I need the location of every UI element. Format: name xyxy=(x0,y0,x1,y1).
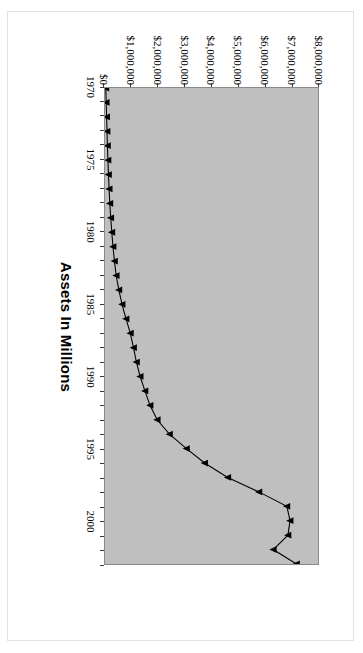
data-point-marker xyxy=(282,502,289,509)
data-point-marker xyxy=(269,546,276,553)
value-tick-mark xyxy=(211,83,212,87)
series-assets-line xyxy=(105,88,296,564)
value-tick-mark xyxy=(318,83,319,87)
data-point-marker xyxy=(105,88,109,91)
value-tick-mark xyxy=(157,83,158,87)
data-point-marker xyxy=(153,416,160,423)
category-tick-mark xyxy=(100,390,104,391)
category-tick-mark xyxy=(100,187,104,188)
value-tick-label: $1,000,000 xyxy=(124,35,136,85)
value-tick-label: $2,000,000 xyxy=(151,35,163,85)
data-point-marker xyxy=(106,214,113,221)
value-tick-label: $8,000,000 xyxy=(313,35,325,85)
category-tick-mark xyxy=(100,274,104,275)
value-tick-mark xyxy=(184,83,185,87)
value-tick-label: $6,000,000 xyxy=(259,35,271,85)
category-tick-mark xyxy=(100,361,104,362)
value-tick-mark xyxy=(264,83,265,87)
category-tick-mark xyxy=(100,129,104,130)
category-tick-mark xyxy=(100,260,104,261)
category-tick-mark xyxy=(100,405,104,406)
category-tick-mark xyxy=(100,477,104,478)
data-point-marker xyxy=(165,430,172,437)
category-tick-mark xyxy=(100,303,104,304)
category-tick-mark xyxy=(100,376,104,377)
category-tick-label: 1980 xyxy=(85,220,97,242)
category-tick-mark xyxy=(100,216,104,217)
value-tick-mark xyxy=(237,83,238,87)
value-tick-label: $5,000,000 xyxy=(232,35,244,85)
data-point-marker xyxy=(105,200,112,207)
category-tick-label: 1995 xyxy=(85,438,97,460)
category-tick-mark xyxy=(100,492,104,493)
category-tick-mark xyxy=(100,550,104,551)
category-tick-mark xyxy=(100,332,104,333)
category-tick-mark xyxy=(100,86,104,87)
category-tick-mark xyxy=(100,231,104,232)
category-tick-mark xyxy=(100,318,104,319)
category-tick-mark xyxy=(100,245,104,246)
category-tick-mark xyxy=(100,463,104,464)
data-line-series xyxy=(105,88,318,564)
data-point-marker xyxy=(223,474,230,481)
category-tick-mark xyxy=(100,202,104,203)
category-tick-mark xyxy=(100,347,104,348)
category-tick-label: 1985 xyxy=(85,293,97,315)
category-tick-mark xyxy=(100,535,104,536)
category-tick-label: 1975 xyxy=(85,148,97,170)
category-tick-mark xyxy=(100,434,104,435)
category-tick-mark xyxy=(100,419,104,420)
data-point-marker xyxy=(284,531,291,538)
value-tick-mark xyxy=(130,83,131,87)
chart-area: $8,000,000$7,000,000$6,000,000$5,000,000… xyxy=(37,27,327,627)
category-tick-mark xyxy=(100,158,104,159)
plot-area xyxy=(104,87,319,565)
rotated-chart-stage: $8,000,000$7,000,000$6,000,000$5,000,000… xyxy=(37,27,327,627)
category-tick-label: 1970 xyxy=(85,76,97,98)
value-tick-label: $4,000,000 xyxy=(205,35,217,85)
category-tick-mark xyxy=(100,173,104,174)
value-axis-title: Assets In Millions xyxy=(58,27,75,627)
data-point-marker xyxy=(255,488,262,495)
category-tick-mark xyxy=(100,564,104,565)
value-tick-mark xyxy=(291,83,292,87)
data-point-marker xyxy=(105,185,112,192)
category-tick-mark xyxy=(100,521,104,522)
value-tick-label: $3,000,000 xyxy=(178,35,190,85)
category-tick-mark xyxy=(100,289,104,290)
chart-page: $8,000,000$7,000,000$6,000,000$5,000,000… xyxy=(0,0,363,653)
series-assets-markers xyxy=(105,88,300,564)
category-tick-mark xyxy=(100,115,104,116)
category-tick-mark xyxy=(100,100,104,101)
data-point-marker xyxy=(105,99,110,106)
category-tick-mark xyxy=(100,506,104,507)
category-tick-label: 1990 xyxy=(85,365,97,387)
category-tick-label: 2000 xyxy=(85,510,97,532)
category-tick-mark xyxy=(100,448,104,449)
category-tick-mark xyxy=(100,144,104,145)
value-tick-label: $7,000,000 xyxy=(286,35,298,85)
